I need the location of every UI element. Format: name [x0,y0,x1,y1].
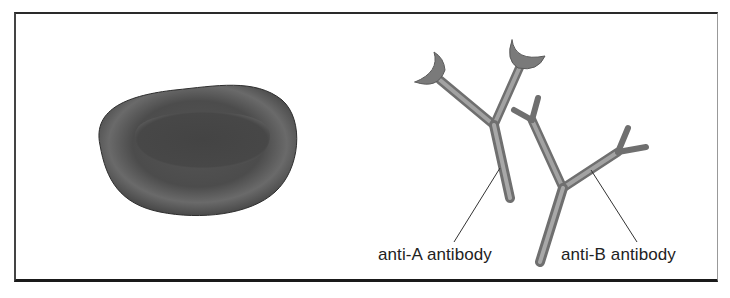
anti-b-antibody-label: anti-B antibody [561,245,676,265]
red-blood-cell [99,85,297,215]
anti-a-antibody-label: anti-A antibody [378,245,492,265]
anti-a-leader-line [454,168,500,242]
anti-b-leader-line [591,170,637,242]
anti-b-antibody [514,98,646,262]
